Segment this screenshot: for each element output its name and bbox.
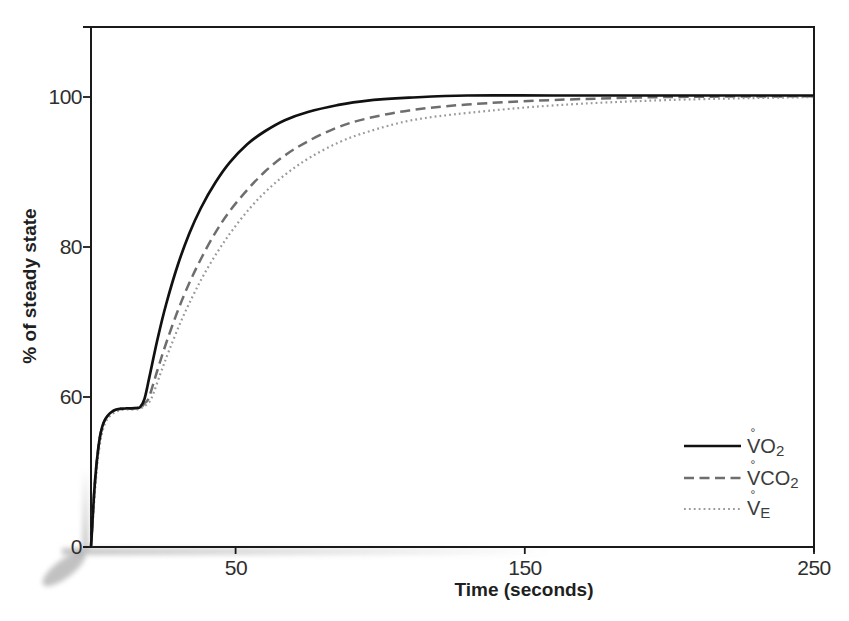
x-axis-title: Time (seconds): [424, 579, 624, 601]
ticks-layer: [83, 97, 814, 554]
plot-canvas: [0, 0, 849, 621]
axis-shadows: [38, 468, 552, 592]
x-tick-label-250: 250: [784, 556, 844, 580]
v-dot-symbol: V°: [747, 435, 760, 457]
axis-shadow-left: [82, 468, 89, 550]
ring-accent: °: [751, 490, 756, 500]
curve-vco2: [91, 96, 814, 547]
ring-accent: °: [751, 460, 756, 470]
x-tick-label-50: 50: [206, 556, 266, 580]
x-tick-label-150: 150: [495, 556, 555, 580]
legend-label-ve: V°E: [747, 497, 770, 519]
legend-label-vco2: V°CO2: [747, 467, 799, 489]
y-tick-label-60: 60: [34, 385, 82, 409]
y-tick-label-0: 0: [34, 535, 82, 559]
axis-shadow-bottom: [62, 548, 552, 555]
v-dot-symbol: V°: [747, 467, 760, 489]
legend-line-samples: [684, 446, 741, 509]
chart-figure: 100 80 60 0 50 150 250 Time (seconds) % …: [0, 0, 849, 621]
legend-label-vo2: V°O2: [747, 435, 784, 457]
subscript: E: [760, 504, 770, 521]
ring-accent: °: [751, 428, 756, 438]
y-tick-label-100: 100: [34, 85, 82, 109]
subscript: 2: [790, 474, 798, 491]
y-axis-title: % of steady state: [19, 186, 43, 386]
v-dot-symbol: V°: [747, 497, 760, 519]
curve-ve: [91, 97, 814, 547]
subscript: 2: [776, 442, 784, 459]
